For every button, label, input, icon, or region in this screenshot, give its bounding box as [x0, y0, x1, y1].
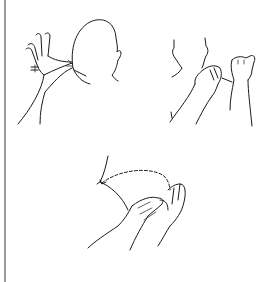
panel-top-left	[18, 20, 121, 124]
line-drawing	[0, 0, 271, 282]
panel-top-right	[170, 38, 255, 126]
panel-bottom-center	[88, 156, 185, 250]
illustration	[0, 0, 271, 282]
